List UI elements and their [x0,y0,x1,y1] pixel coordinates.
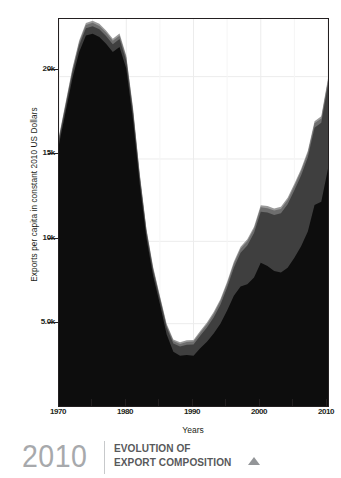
y-tick-mark-20k [48,69,58,70]
x-tick-mark-minor-1995 [225,399,226,406]
y-axis-title: Exports per capita in constant 2010 US D… [30,65,39,325]
caption-year: 2010 [22,440,87,473]
caption-divider [104,441,105,474]
y-tick-mark-10k [48,238,58,239]
x-tick-mark-minor-2005 [292,399,293,406]
x-tick-label-2010: 2010 [306,407,341,416]
x-tick-mark-minor-1985 [158,399,159,406]
x-axis-title: Years [58,425,328,435]
triangle-up-icon [248,457,260,465]
x-tick-mark-2000 [259,399,260,406]
x-tick-label-1990: 1990 [172,407,212,416]
plot-area [58,18,329,407]
x-tick-label-1970: 1970 [38,407,78,416]
x-tick-mark-1980 [125,399,126,406]
x-tick-mark-2010 [326,399,327,406]
chart-figure: Exports per capita in constant 2010 US D… [0,0,341,478]
area-chart-svg [59,19,328,406]
x-tick-label-1980: 1980 [105,407,145,416]
caption-bar: 2010 EVOLUTION OF EXPORT COMPOSITION [22,440,322,478]
x-tick-label-2000: 2000 [239,407,279,416]
x-tick-mark-minor-1975 [91,399,92,406]
y-tick-mark-15k [48,153,58,154]
caption-text: EVOLUTION OF EXPORT COMPOSITION [114,440,244,469]
caption-line-2: EXPORT COMPOSITION [114,456,231,470]
x-tick-mark-1990 [192,399,193,406]
caption-line-1: EVOLUTION OF [114,442,231,456]
y-tick-mark-5k [48,322,58,323]
x-tick-mark-1970 [58,399,59,406]
